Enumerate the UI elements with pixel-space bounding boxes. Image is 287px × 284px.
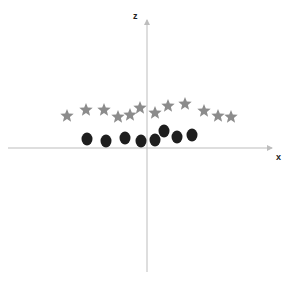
- circle-marker: [159, 125, 170, 138]
- star-marker: [97, 103, 110, 116]
- star-marker: [178, 97, 191, 110]
- star-marker: [224, 110, 237, 123]
- star-marker: [60, 109, 73, 122]
- circle-marker: [172, 131, 183, 144]
- star-marker: [161, 99, 174, 112]
- circle-marker: [82, 133, 93, 146]
- diagram-canvas: [0, 0, 287, 284]
- star-marker: [211, 109, 224, 122]
- star-marker: [111, 110, 124, 123]
- z-axis-label: z: [133, 11, 138, 21]
- star-markers: [60, 97, 237, 123]
- circle-marker: [187, 129, 198, 142]
- star-marker: [123, 108, 136, 121]
- circle-marker: [101, 135, 112, 148]
- star-marker: [133, 101, 146, 114]
- circle-marker: [150, 134, 161, 147]
- circle-marker: [120, 132, 131, 145]
- circle-markers: [82, 125, 198, 148]
- star-marker: [79, 103, 92, 116]
- star-marker: [148, 106, 161, 119]
- circle-marker: [136, 135, 147, 148]
- x-axis-label: x: [276, 152, 281, 162]
- star-marker: [197, 104, 210, 117]
